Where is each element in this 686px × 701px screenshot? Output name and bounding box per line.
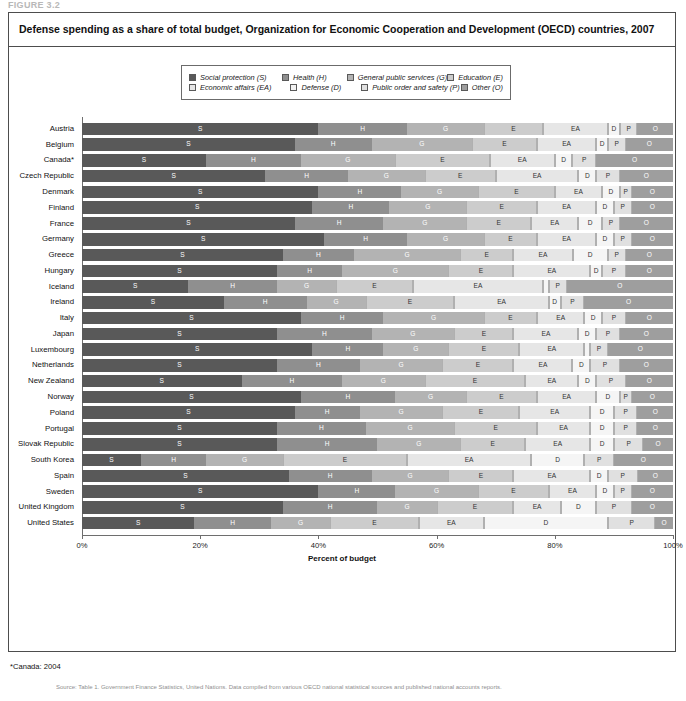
- bar-segment-g[interactable]: G: [395, 485, 478, 498]
- bar-segment-e[interactable]: E: [460, 438, 525, 451]
- bar-segment-h[interactable]: H: [194, 517, 271, 530]
- bar-segment-e[interactable]: E: [478, 485, 549, 498]
- bar-segment-p[interactable]: P: [584, 454, 614, 467]
- stacked-bar[interactable]: SHGEEADPO: [82, 249, 673, 262]
- bar-segment-o[interactable]: O: [614, 454, 673, 467]
- bar-segment-s[interactable]: S: [82, 296, 224, 309]
- bar-segment-p[interactable]: P: [614, 233, 632, 246]
- bar-segment-h[interactable]: H: [318, 186, 401, 199]
- bar-segment-s[interactable]: S: [82, 186, 318, 199]
- bar-segment-e[interactable]: E: [460, 249, 513, 262]
- bar-segment-e[interactable]: E: [448, 265, 513, 278]
- bar-segment-p[interactable]: P: [602, 217, 620, 230]
- bar-segment-h[interactable]: H: [277, 359, 360, 372]
- bar-segment-e[interactable]: E: [448, 343, 519, 356]
- bar-segment-e[interactable]: E: [478, 186, 555, 199]
- bar-segment-h[interactable]: H: [312, 201, 389, 214]
- bar-segment-e[interactable]: E: [466, 391, 537, 404]
- bar-segment-p[interactable]: P: [614, 485, 632, 498]
- bar-segment-e[interactable]: E: [425, 170, 496, 183]
- stacked-bar[interactable]: SHGEEADPO: [82, 312, 673, 325]
- bar-segment-d[interactable]: D: [602, 186, 620, 199]
- bar-segment-s[interactable]: S: [82, 123, 318, 136]
- stacked-bar[interactable]: SHGEEADPO: [82, 422, 673, 435]
- bar-segment-d[interactable]: D: [596, 485, 614, 498]
- bar-segment-o[interactable]: O: [567, 280, 673, 293]
- bar-segment-p[interactable]: P: [602, 312, 626, 325]
- bar-segment-e[interactable]: E: [466, 217, 531, 230]
- bar-segment-p[interactable]: P: [608, 470, 638, 483]
- stacked-bar[interactable]: SHGEEADPO: [82, 438, 673, 451]
- stacked-bar[interactable]: SHGEEADPO: [82, 454, 673, 467]
- bar-segment-o[interactable]: O: [637, 406, 672, 419]
- stacked-bar[interactable]: SHGEEAPO: [82, 280, 673, 293]
- bar-segment-g[interactable]: G: [342, 265, 448, 278]
- bar-segment-e[interactable]: E: [472, 138, 537, 151]
- bar-segment-ea[interactable]: EA: [531, 217, 578, 230]
- bar-segment-ea[interactable]: EA: [525, 438, 590, 451]
- bar-segment-d[interactable]: D: [531, 454, 584, 467]
- bar-segment-ea[interactable]: EA: [537, 138, 596, 151]
- bar-segment-p[interactable]: P: [561, 296, 585, 309]
- bar-segment-p[interactable]: P: [590, 359, 620, 372]
- bar-segment-g[interactable]: G: [407, 123, 484, 136]
- bar-segment-s[interactable]: S: [82, 517, 194, 530]
- bar-segment-h[interactable]: H: [283, 249, 354, 262]
- bar-segment-o[interactable]: O: [655, 517, 673, 530]
- stacked-bar[interactable]: SHGEEADPO: [82, 406, 673, 419]
- stacked-bar[interactable]: SHGEEADPO: [82, 123, 673, 136]
- bar-segment-p[interactable]: P: [614, 201, 632, 214]
- bar-segment-s[interactable]: S: [82, 170, 265, 183]
- bar-segment-o[interactable]: O: [638, 470, 673, 483]
- bar-segment-p[interactable]: P: [608, 138, 626, 151]
- bar-segment-ea[interactable]: EA: [513, 265, 590, 278]
- bar-segment-ea[interactable]: EA: [537, 233, 596, 246]
- bar-segment-ea[interactable]: EA: [490, 154, 555, 167]
- bar-segment-o[interactable]: O: [632, 186, 673, 199]
- stacked-bar[interactable]: SHGEEADPO: [82, 186, 673, 199]
- bar-segment-d[interactable]: D: [590, 265, 602, 278]
- bar-segment-h[interactable]: H: [141, 454, 206, 467]
- bar-segment-p[interactable]: P: [596, 375, 626, 388]
- bar-segment-h[interactable]: H: [265, 170, 348, 183]
- bar-segment-g[interactable]: G: [377, 438, 460, 451]
- stacked-bar[interactable]: SHGEEADPO: [82, 170, 673, 183]
- stacked-bar[interactable]: SHGEEADPO: [82, 201, 673, 214]
- bar-segment-h[interactable]: H: [206, 154, 301, 167]
- bar-segment-s[interactable]: S: [82, 201, 312, 214]
- bar-segment-o[interactable]: O: [584, 296, 673, 309]
- bar-segment-h[interactable]: H: [277, 422, 366, 435]
- bar-segment-g[interactable]: G: [307, 296, 366, 309]
- bar-segment-ea[interactable]: EA: [537, 391, 596, 404]
- bar-segment-e[interactable]: E: [336, 280, 413, 293]
- bar-segment-ea[interactable]: EA: [537, 422, 590, 435]
- bar-segment-d[interactable]: D: [596, 201, 614, 214]
- bar-segment-d[interactable]: D: [484, 517, 608, 530]
- bar-segment-e[interactable]: E: [466, 201, 537, 214]
- bar-segment-h[interactable]: H: [224, 296, 307, 309]
- bar-segment-o[interactable]: O: [620, 217, 673, 230]
- bar-segment-g[interactable]: G: [383, 343, 448, 356]
- bar-segment-ea[interactable]: EA: [519, 343, 584, 356]
- bar-segment-ea[interactable]: EA: [519, 406, 590, 419]
- bar-segment-o[interactable]: O: [626, 265, 673, 278]
- bar-segment-e[interactable]: E: [442, 359, 513, 372]
- bar-segment-h[interactable]: H: [295, 406, 360, 419]
- bar-segment-p[interactable]: P: [614, 422, 638, 435]
- bar-segment-o[interactable]: O: [632, 391, 673, 404]
- bar-segment-s[interactable]: S: [82, 265, 277, 278]
- bar-segment-g[interactable]: G: [342, 375, 425, 388]
- bar-segment-ea[interactable]: EA: [513, 328, 578, 341]
- bar-segment-g[interactable]: G: [348, 170, 425, 183]
- stacked-bar[interactable]: SHGEEADPO: [82, 154, 673, 167]
- bar-segment-o[interactable]: O: [620, 359, 673, 372]
- stacked-bar[interactable]: SHGEEADPO: [82, 359, 673, 372]
- bar-segment-s[interactable]: S: [82, 485, 318, 498]
- bar-segment-e[interactable]: E: [425, 375, 525, 388]
- bar-segment-g[interactable]: G: [401, 186, 478, 199]
- bar-segment-h[interactable]: H: [301, 312, 384, 325]
- bar-segment-d[interactable]: D: [561, 501, 596, 514]
- bar-segment-ea[interactable]: EA: [454, 296, 549, 309]
- bar-segment-h[interactable]: H: [318, 123, 407, 136]
- bar-segment-d[interactable]: D: [590, 422, 614, 435]
